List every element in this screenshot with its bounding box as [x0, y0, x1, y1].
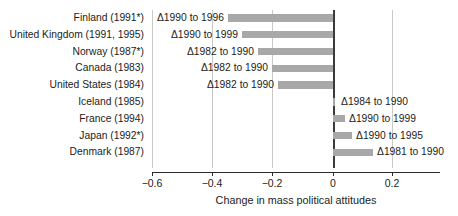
- bar-row: Δ1981 to 1990: [152, 144, 440, 161]
- x-tick-mark: [392, 172, 393, 176]
- bar-row: Δ1982 to 1990: [152, 44, 440, 61]
- bar-annotation: Δ1984 to 1990: [341, 94, 408, 111]
- x-tick-label: 0.2: [385, 177, 400, 189]
- bar-row: Δ1990 to 1999: [152, 27, 440, 44]
- x-tick-mark: [272, 172, 273, 176]
- x-tick-label: −0.4: [202, 177, 223, 189]
- x-tick-label: 0: [330, 177, 336, 189]
- bar-finland: [228, 14, 333, 22]
- bar-annotation: Δ1982 to 1990: [126, 77, 274, 94]
- chart-figure: Finland (1991*) United Kingdom (1991, 19…: [0, 0, 458, 216]
- bar-row: Δ1990 to 1999: [152, 111, 440, 128]
- bar-row: Δ1990 to 1996: [152, 10, 440, 27]
- bar-united-kingdom: [242, 31, 333, 39]
- bar-iceland: [333, 98, 335, 106]
- category-label: Japan (1992*): [79, 128, 144, 145]
- x-tick-mark: [333, 172, 334, 176]
- bar-norway: [258, 48, 333, 56]
- x-axis-line: [152, 172, 440, 173]
- bar-japan: [333, 132, 352, 140]
- x-tick-label: −0.6: [142, 177, 163, 189]
- bar-annotation: Δ1981 to 1990: [377, 144, 444, 161]
- bar-row: Δ1990 to 1995: [152, 128, 440, 145]
- bar-united-states: [278, 81, 333, 89]
- bar-row: Δ1984 to 1990: [152, 94, 440, 111]
- x-tick-label: −0.2: [262, 177, 283, 189]
- x-axis-title: Change in mass political attitudes: [152, 194, 440, 206]
- category-label: Iceland (1985): [78, 94, 144, 111]
- bar-annotation: Δ1990 to 1995: [356, 128, 423, 145]
- bar-france: [333, 115, 345, 123]
- plot-area: Δ1990 to 1996 Δ1990 to 1999 Δ1982 to 199…: [152, 10, 440, 168]
- bar-annotation: Δ1982 to 1990: [120, 60, 268, 77]
- x-tick-mark: [212, 172, 213, 176]
- bar-row: Δ1982 to 1990: [152, 77, 440, 94]
- bar-row: Δ1982 to 1990: [152, 60, 440, 77]
- bar-annotation: Δ1990 to 1999: [349, 111, 416, 128]
- category-label: France (1994): [79, 111, 144, 128]
- bar-annotation: Δ1982 to 1990: [106, 44, 254, 61]
- category-label: Denmark (1987): [70, 144, 144, 161]
- bar-canada: [272, 65, 333, 73]
- bar-annotation: Δ1990 to 1996: [76, 10, 224, 27]
- x-tick-mark: [152, 172, 153, 176]
- bar-annotation: Δ1990 to 1999: [90, 27, 238, 44]
- bar-denmark: [333, 149, 373, 157]
